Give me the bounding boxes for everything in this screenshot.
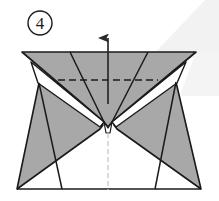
origami-step-figure: 4 <box>0 0 219 201</box>
step-number-label: 4 <box>36 14 45 33</box>
origami-diagram: 4 <box>0 0 219 201</box>
